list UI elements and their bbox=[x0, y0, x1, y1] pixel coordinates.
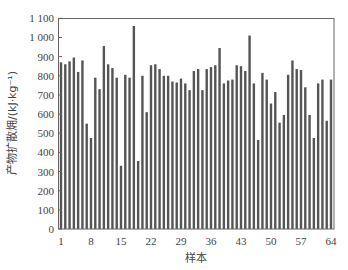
y-tick-label: 900 bbox=[38, 51, 55, 63]
y-tick-label: 500 bbox=[38, 127, 55, 139]
bar-sample-4 bbox=[73, 58, 75, 229]
bar-sample-35 bbox=[206, 69, 208, 229]
bar-sample-48 bbox=[261, 73, 263, 229]
bar-sample-23 bbox=[154, 64, 156, 229]
bar-sample-36 bbox=[210, 67, 212, 229]
bar-sample-44 bbox=[244, 71, 246, 229]
x-tick-label: 29 bbox=[176, 235, 188, 247]
bar-sample-15 bbox=[120, 166, 122, 229]
bar-sample-56 bbox=[296, 69, 298, 229]
y-tick-label: 0 bbox=[49, 223, 55, 235]
bar-sample-26 bbox=[167, 76, 169, 229]
bar-sample-34 bbox=[201, 90, 203, 229]
bar-sample-61 bbox=[317, 83, 319, 229]
bar-sample-38 bbox=[218, 48, 220, 229]
x-tick-label: 15 bbox=[116, 235, 128, 247]
x-tick-label: 50 bbox=[266, 235, 278, 247]
bar-sample-8 bbox=[90, 138, 92, 229]
bar-sample-60 bbox=[313, 138, 315, 229]
bar-sample-21 bbox=[146, 112, 148, 229]
bar-sample-64 bbox=[330, 80, 332, 229]
x-axis: 181522293643505764 bbox=[58, 235, 337, 247]
bar-sample-43 bbox=[240, 66, 242, 229]
bar-sample-3 bbox=[68, 61, 70, 229]
bar-sample-59 bbox=[308, 115, 310, 229]
bar-sample-42 bbox=[236, 65, 238, 229]
bar-sample-16 bbox=[124, 75, 126, 229]
y-tick-label: 200 bbox=[38, 185, 55, 197]
y-tick-label: 600 bbox=[38, 108, 55, 120]
bar-sample-37 bbox=[214, 65, 216, 229]
y-tick-label: 300 bbox=[38, 166, 55, 178]
bar-sample-11 bbox=[103, 46, 105, 229]
y-tick-label: 1 100 bbox=[29, 12, 54, 24]
x-tick-label: 8 bbox=[88, 235, 94, 247]
y-tick-label: 1 000 bbox=[29, 31, 54, 43]
bar-sample-22 bbox=[150, 65, 152, 229]
x-tick-label: 1 bbox=[58, 235, 64, 247]
bar-sample-28 bbox=[176, 82, 178, 229]
bar-sample-46 bbox=[253, 83, 255, 229]
bar-sample-51 bbox=[274, 92, 276, 229]
x-tick-label: 43 bbox=[236, 235, 248, 247]
y-tick-label: 700 bbox=[38, 89, 55, 101]
x-tick-label: 22 bbox=[146, 235, 157, 247]
y-axis-title: 产物扩散㶲/(kJ·kg⁻¹) bbox=[5, 71, 19, 175]
bar-sample-10 bbox=[98, 89, 100, 229]
bar-sample-7 bbox=[86, 124, 88, 229]
bar-sample-20 bbox=[141, 76, 143, 229]
y-tick-label: 400 bbox=[38, 146, 55, 158]
bar-sample-41 bbox=[231, 80, 233, 229]
bar-sample-13 bbox=[111, 68, 113, 229]
y-tick-label: 100 bbox=[38, 204, 55, 216]
y-tick-label: 800 bbox=[38, 70, 55, 82]
bar-sample-50 bbox=[270, 104, 272, 229]
bar-sample-18 bbox=[133, 26, 135, 229]
bar-sample-25 bbox=[163, 76, 165, 229]
bar-sample-6 bbox=[81, 60, 83, 229]
bar-sample-58 bbox=[304, 87, 306, 229]
bar-sample-5 bbox=[77, 72, 79, 229]
bar-sample-63 bbox=[326, 121, 328, 229]
bar-sample-47 bbox=[257, 140, 259, 229]
bar-sample-17 bbox=[128, 78, 130, 229]
bar-sample-62 bbox=[321, 80, 323, 229]
bar-sample-31 bbox=[188, 90, 190, 229]
bar-sample-24 bbox=[158, 69, 160, 229]
bar-sample-33 bbox=[197, 69, 199, 229]
y-axis: 01002003004005006007008009001 0001 100 bbox=[29, 12, 62, 235]
bar-sample-12 bbox=[107, 64, 109, 229]
x-tick-label: 64 bbox=[326, 235, 338, 247]
x-tick-label: 36 bbox=[206, 235, 218, 247]
bar-chart: 01002003004005006007008009001 0001 100 1… bbox=[0, 0, 348, 270]
bar-sample-57 bbox=[300, 70, 302, 229]
bar-sample-45 bbox=[248, 36, 250, 229]
bar-sample-55 bbox=[291, 60, 293, 229]
bar-sample-53 bbox=[283, 115, 285, 229]
bar-sample-40 bbox=[227, 81, 229, 229]
bar-sample-2 bbox=[64, 64, 66, 229]
bar-sample-27 bbox=[171, 82, 173, 229]
bar-sample-30 bbox=[184, 83, 186, 229]
bar-sample-39 bbox=[223, 83, 225, 229]
bar-sample-52 bbox=[278, 123, 280, 229]
bar-sample-29 bbox=[180, 79, 182, 229]
bar-sample-1 bbox=[60, 62, 62, 229]
x-tick-label: 57 bbox=[296, 235, 308, 247]
bar-sample-19 bbox=[137, 161, 139, 229]
bar-sample-54 bbox=[287, 75, 289, 229]
bar-series bbox=[60, 26, 332, 229]
bar-sample-49 bbox=[266, 80, 268, 229]
bar-sample-9 bbox=[94, 78, 96, 229]
x-axis-title: 样本 bbox=[185, 251, 207, 265]
bar-sample-32 bbox=[193, 71, 195, 229]
bar-sample-14 bbox=[116, 78, 118, 229]
